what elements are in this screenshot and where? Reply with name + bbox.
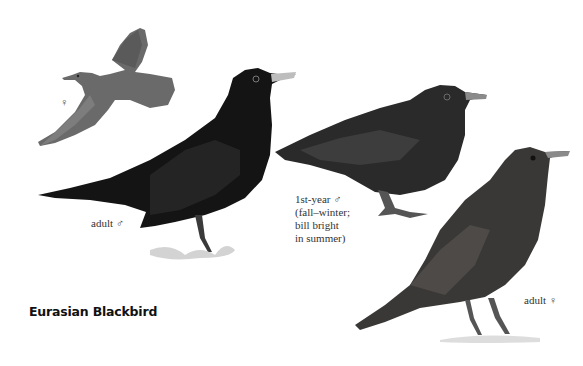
flying-female-bird (38, 28, 175, 146)
plate-title: Eurasian Blackbird (29, 304, 157, 319)
first-year-male-caption: 1st-year ♂ (fall–winter; bill bright in … (295, 193, 350, 245)
adult-female-caption: adult ♀ (524, 294, 557, 307)
caption-line: 1st-year ♂ (295, 193, 350, 206)
caption-line: in summer) (295, 232, 350, 245)
adult-male-caption: adult ♂ (91, 217, 124, 230)
caption-line: bill bright (295, 219, 350, 232)
flight-female-caption: ♀ (60, 96, 68, 109)
caption-line: (fall–winter; (295, 206, 350, 219)
